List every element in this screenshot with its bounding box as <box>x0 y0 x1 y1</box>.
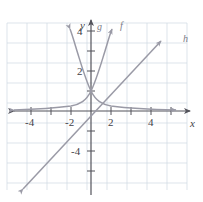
x-tick-label-2: 2 <box>108 117 114 128</box>
grid-lines <box>7 23 187 190</box>
curve-label-f: f <box>120 21 123 31</box>
curve-label-h: h <box>183 34 188 44</box>
curve-f <box>14 29 112 110</box>
x-tick-label--4: -4 <box>25 117 34 128</box>
y-tick-label--4: -4 <box>71 146 80 157</box>
curve-label-g: g <box>97 22 102 32</box>
axis-lines <box>14 20 190 195</box>
y-tick-label-4: 4 <box>77 26 83 37</box>
x-axis-label: x <box>190 118 195 129</box>
y-tick-label-2: 2 <box>77 66 83 77</box>
x-tick-label-4: 4 <box>148 117 154 128</box>
x-tick-label--2: -2 <box>65 117 74 128</box>
graph-figure: y x g f h -4 -2 2 4 2 4 -4 <box>0 0 203 202</box>
